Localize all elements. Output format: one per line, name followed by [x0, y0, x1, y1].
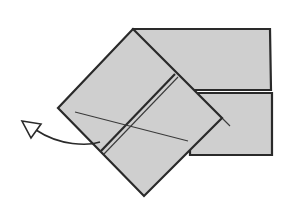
- origami-diagram: [0, 0, 301, 206]
- hollow-arrowhead-icon: [22, 121, 41, 138]
- diagram-svg: [0, 0, 301, 206]
